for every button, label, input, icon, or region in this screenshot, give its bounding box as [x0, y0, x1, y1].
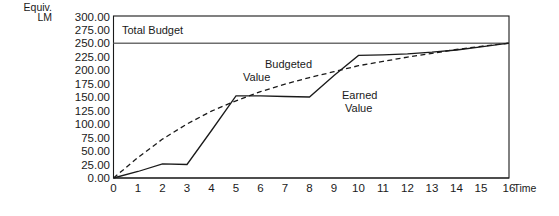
budgeted-value-label-line1: Budgeted: [265, 58, 312, 70]
y-tick-label: 125.00: [75, 105, 110, 117]
x-tick-label: 7: [282, 182, 288, 194]
x-tick-label: 11: [377, 182, 389, 194]
plot-frame: [114, 16, 510, 178]
total-budget-label: Total Budget: [122, 24, 183, 36]
x-tick-label: 15: [475, 182, 488, 194]
x-tick-label: 8: [306, 182, 312, 194]
chart-canvas: Equiv. LM 300.00 275.00 250.00 225.00 20…: [0, 0, 559, 216]
y-tick-label: 0.00: [88, 172, 110, 184]
x-tick-label: 9: [331, 182, 337, 194]
y-tick-label: 150.00: [75, 91, 110, 103]
y-tick-label: 300.00: [75, 11, 110, 23]
x-axis-tick-labels: 0 1 2 3 4 5 6 7 8 9 10 11 12 13 14 15 16: [110, 182, 515, 194]
y-tick-label: 100.00: [75, 118, 110, 130]
x-tick-label: 4: [208, 182, 215, 194]
y-axis-tick-labels: 300.00 275.00 250.00 225.00 200.00 175.0…: [75, 11, 110, 184]
x-tick-label: 1: [135, 182, 141, 194]
x-tick-label: 0: [110, 182, 116, 194]
x-tick-label: 14: [450, 182, 463, 194]
x-tick-label: 13: [426, 182, 439, 194]
x-tick-label: 5: [233, 182, 239, 194]
x-tick-label: 6: [257, 182, 263, 194]
y-tick-label: 225.00: [75, 51, 110, 63]
x-tick-label: 10: [352, 182, 365, 194]
x-tick-label: 2: [159, 182, 165, 194]
y-tick-label: 250.00: [75, 37, 110, 49]
x-tick-label: 12: [401, 182, 414, 194]
y-tick-label: 175.00: [75, 78, 110, 90]
y-tick-label: 25.00: [81, 159, 110, 171]
earned-value-label-line1: Earned: [342, 89, 377, 101]
y-tick-label: 200.00: [75, 64, 110, 76]
evm-chart: Equiv. LM 300.00 275.00 250.00 225.00 20…: [0, 0, 559, 216]
budgeted-value-label-line2: Value: [243, 71, 270, 83]
y-tick-label: 50.00: [81, 145, 110, 157]
x-axis-title: Time: [514, 182, 537, 194]
y-tick-label: 75.00: [81, 132, 110, 144]
y-axis-title-line2: LM: [37, 11, 52, 23]
earned-value-label-line2: Value: [345, 102, 372, 114]
x-tick-label: 3: [184, 182, 190, 194]
y-tick-label: 275.00: [75, 24, 110, 36]
